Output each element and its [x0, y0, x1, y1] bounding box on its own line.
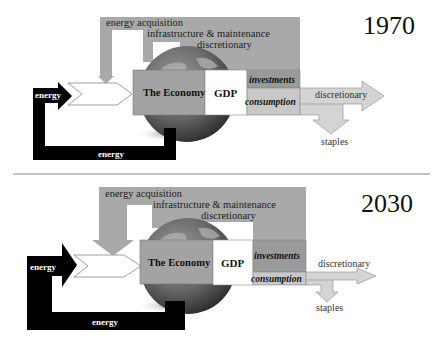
economy-label: The Economy — [143, 87, 206, 98]
discretionary-out-label: discretionary — [315, 89, 367, 100]
discretionary-top-label: discretionary — [201, 210, 257, 221]
energy-acquisition-label: energy acquisition — [105, 188, 183, 199]
gdp-label: GDP — [221, 257, 245, 269]
infrastructure-label: infrastructure & maintenance — [147, 28, 270, 39]
energy-acquisition-arrowhead — [92, 240, 134, 256]
diagram-canvas: energy acquisition infrastructure & main… — [0, 0, 433, 346]
gdp-label: GDP — [214, 87, 238, 99]
energy-input-chevron — [74, 255, 141, 277]
energy-in-label: energy — [30, 262, 56, 272]
energy-acquisition-label: energy acquisition — [106, 17, 184, 28]
energy-input-chevron — [68, 83, 132, 105]
consumption-label: consumption — [251, 274, 302, 284]
energy-in-label: energy — [35, 90, 61, 100]
discretionary-arrow — [306, 268, 376, 302]
staples-label: staples — [316, 302, 343, 313]
discretionary-out-label: discretionary — [318, 258, 370, 269]
investments-label: investments — [254, 251, 300, 261]
discretionary-top-label: discretionary — [197, 39, 253, 50]
infrastructure-label: infrastructure & maintenance — [153, 199, 276, 210]
energy-loop-label: energy — [98, 149, 124, 159]
investments-label: investments — [249, 75, 295, 85]
staples-label: staples — [321, 136, 348, 147]
consumption-label: consumption — [245, 97, 296, 107]
year-label: 1970 — [363, 11, 415, 40]
energy-loop-label: energy — [92, 317, 118, 327]
year-label: 2030 — [361, 189, 413, 218]
economy-label: The Economy — [148, 257, 211, 268]
